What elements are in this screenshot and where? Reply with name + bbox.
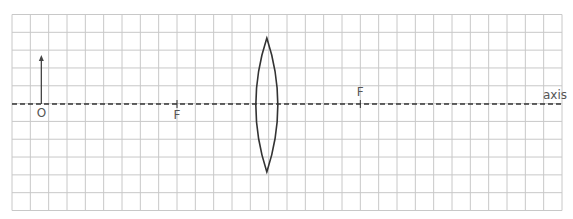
axis-label: axis — [543, 88, 567, 102]
focal-label-right: F — [357, 85, 364, 99]
lens-diagram: axis O FF — [0, 0, 573, 219]
object-arrow — [39, 55, 44, 104]
object-label: O — [37, 106, 46, 120]
grid — [12, 15, 562, 211]
convex-lens — [256, 38, 278, 172]
arrow-head-icon — [39, 55, 44, 61]
focal-label-left: F — [174, 108, 181, 122]
